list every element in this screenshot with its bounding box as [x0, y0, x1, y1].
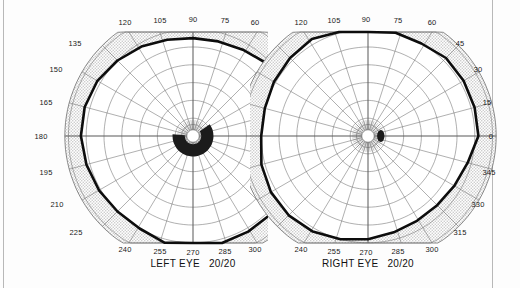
visual-field-chart-right-eye: 120 105 90 75 60 45 30 15 0 345 330 315 … [250, 0, 500, 288]
axis-label-right-bottom-1: 255 [327, 247, 340, 256]
axis-label-left-bottom-1: 255 [153, 247, 166, 256]
axis-label-left-side-6: 225 [69, 228, 82, 237]
axis-label-right-top-3: 75 [394, 16, 403, 25]
visual-field-chart-left-eye: 120 105 90 75 60 135 150 165 180 195 210… [18, 0, 268, 288]
page-canvas: 120 105 90 75 60 135 150 165 180 195 210… [0, 0, 520, 288]
axis-label-left-side-3: 180 [34, 132, 47, 141]
axis-label-left-side-2: 165 [39, 98, 52, 107]
axis-label-right-bottom-2: 270 [359, 248, 372, 257]
axis-label-left-top-3: 75 [221, 16, 230, 25]
axis-label-right-bottom-3: 285 [391, 247, 404, 256]
axis-label-right-side-6: 315 [453, 228, 466, 237]
axis-label-left-top-0: 120 [118, 18, 131, 27]
left-eye-acuity: 20/20 [209, 258, 236, 269]
axis-label-left-top-1: 105 [153, 16, 166, 25]
axis-label-right-side-5: 330 [471, 200, 484, 209]
axis-label-left-bottom-3: 285 [218, 247, 231, 256]
left-eye-label: LEFT EYE [151, 258, 200, 269]
page-border-left [3, 0, 4, 288]
axis-label-left-side-1: 150 [49, 65, 62, 74]
right-eye-label: RIGHT EYE [322, 258, 378, 269]
right-eye-acuity: 20/20 [387, 258, 414, 269]
left-eye-caption: LEFT EYE20/20 [151, 258, 236, 269]
axis-label-left-side-5: 210 [50, 200, 63, 209]
axis-label-right-top-4: 60 [428, 18, 437, 27]
axis-label-right-side-1: 30 [474, 65, 483, 74]
left-eye-plot [18, 0, 268, 288]
axis-label-right-side-0: 45 [456, 39, 465, 48]
axis-label-left-side-0: 135 [68, 39, 81, 48]
axis-label-left-bottom-2: 270 [186, 248, 199, 257]
axis-label-right-side-4: 345 [482, 168, 495, 177]
axis-label-left-top-2: 90 [189, 15, 198, 24]
axis-label-right-side-2: 15 [483, 98, 492, 107]
axis-label-right-top-1: 105 [327, 16, 340, 25]
axis-label-right-top-2: 90 [362, 15, 371, 24]
axis-label-left-bottom-0: 240 [118, 245, 131, 254]
right-eye-caption: RIGHT EYE20/20 [322, 258, 414, 269]
axis-label-right-bottom-4: 300 [425, 245, 438, 254]
axis-label-right-bottom-0: 240 [294, 245, 307, 254]
axis-label-right-side-3: 0 [489, 132, 493, 141]
axis-label-left-side-4: 195 [39, 168, 52, 177]
axis-label-right-top-0: 120 [294, 18, 307, 27]
